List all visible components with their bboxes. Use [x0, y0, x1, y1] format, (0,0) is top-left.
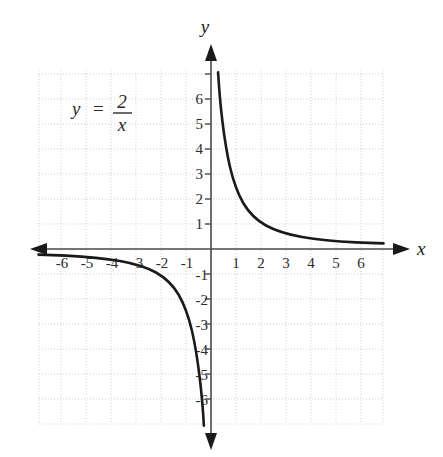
- y-tick-label: 4: [196, 141, 204, 157]
- x-tick-label: -6: [56, 255, 69, 271]
- x-tick-label: -4: [106, 255, 119, 271]
- equation-operator: =: [93, 98, 104, 119]
- y-tick-label: 1: [196, 216, 204, 232]
- y-tick-label: -2: [196, 292, 209, 308]
- y-tick-label: 5: [196, 116, 204, 132]
- x-tick-label: 1: [232, 255, 240, 271]
- y-axis-label: y: [199, 16, 210, 37]
- x-tick-label: 5: [332, 255, 340, 271]
- y-tick-label: -3: [196, 317, 209, 333]
- equation-denominator: x: [117, 114, 127, 135]
- equation-numerator: 2: [117, 91, 127, 112]
- x-axis-label: x: [416, 238, 426, 259]
- y-tick-label: 3: [196, 166, 204, 182]
- y-tick-label: 2: [196, 191, 204, 207]
- y-tick-label: 6: [196, 91, 204, 107]
- x-tick-label: 6: [357, 255, 365, 271]
- x-tick-label: 3: [282, 255, 290, 271]
- x-tick-label: -1: [181, 255, 194, 271]
- x-tick-label: 4: [307, 255, 315, 271]
- chart-background: [0, 0, 443, 457]
- y-tick-label: -1: [196, 267, 209, 283]
- equation-lhs: y: [70, 98, 81, 119]
- x-tick-label: -2: [156, 255, 169, 271]
- x-tick-label: 2: [257, 255, 265, 271]
- function-graph: -6 -5 -4 -3 -2 -1 1 2 3 4 5 6 -1 -2 -3 -…: [0, 0, 443, 457]
